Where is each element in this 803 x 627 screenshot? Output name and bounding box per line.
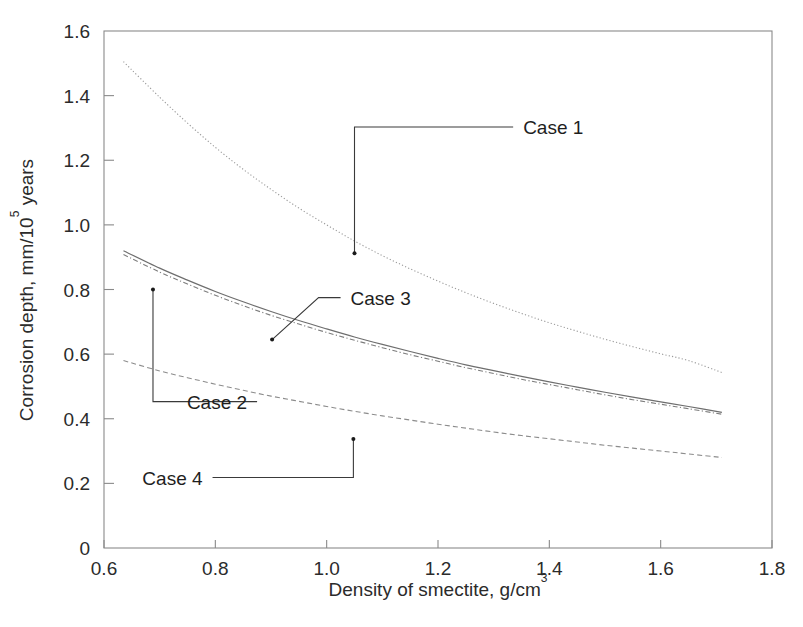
x-axis-tick-labels: 0.60.81.01.21.41.61.8 <box>91 558 785 579</box>
plot-frame <box>104 31 772 548</box>
y-tick-label: 0.6 <box>64 344 90 365</box>
series-annotations: Case 1Case 2Case 3Case 4 <box>142 117 583 489</box>
x-tick-label: 0.6 <box>91 558 117 579</box>
leader-endpoint <box>351 437 355 441</box>
annotation-case-1: Case 1 <box>353 117 584 255</box>
y-axis-title: Corrosion depth, mm/105 years <box>8 159 37 421</box>
y-tick-label: 0.2 <box>64 473 90 494</box>
figure-container: 0.60.81.01.21.41.61.8 00.20.40.60.81.01.… <box>0 0 803 627</box>
series-curve-case-3 <box>123 255 721 415</box>
series-label: Case 1 <box>523 117 583 138</box>
series-curve-case-1 <box>123 62 721 373</box>
leader-line <box>153 290 257 402</box>
annotation-case-4: Case 4 <box>142 437 355 488</box>
leader-endpoint <box>151 288 155 292</box>
series-label: Case 3 <box>351 288 411 309</box>
series-label: Case 2 <box>187 392 247 413</box>
x-axis-ticks <box>104 540 772 548</box>
x-tick-label: 1.8 <box>759 558 785 579</box>
leader-line <box>355 127 514 253</box>
x-tick-label: 0.8 <box>202 558 228 579</box>
series-label: Case 4 <box>142 468 203 489</box>
x-tick-label: 1.0 <box>313 558 339 579</box>
y-axis-ticks <box>104 96 114 484</box>
leader-endpoint <box>353 251 357 255</box>
x-tick-label: 1.6 <box>647 558 673 579</box>
y-tick-label: 0 <box>79 538 90 559</box>
y-tick-label: 1.0 <box>64 215 90 236</box>
series-curve-case-2 <box>123 251 721 413</box>
y-tick-label: 1.6 <box>64 21 90 42</box>
y-tick-label: 0.8 <box>64 280 90 301</box>
y-axis-tick-labels: 00.20.40.60.81.01.21.41.6 <box>64 21 91 559</box>
y-tick-label: 0.4 <box>64 409 91 430</box>
cut-off-caption <box>12 608 572 622</box>
corrosion-depth-chart: 0.60.81.01.21.41.61.8 00.20.40.60.81.01.… <box>0 0 803 627</box>
leader-endpoint <box>270 338 274 342</box>
y-tick-label: 1.2 <box>64 150 90 171</box>
annotation-case-2: Case 2 <box>151 288 257 413</box>
y-tick-label: 1.4 <box>64 86 91 107</box>
leader-line <box>213 439 354 477</box>
x-tick-label: 1.2 <box>425 558 451 579</box>
